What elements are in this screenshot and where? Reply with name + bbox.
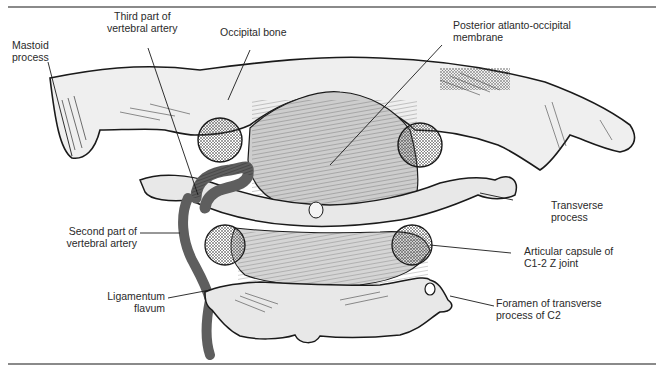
label-mastoid-process: Mastoid process [12,39,49,63]
label-second-part-vertebral-artery: Second part of vertebral artery [62,225,137,249]
c2-transverse-foramen [425,283,435,295]
vertebral-artery-second-part [183,198,210,355]
left-condyle [198,118,242,162]
left-articular-capsule [205,225,245,265]
label-third-part-vertebral-artery: Third part of vertebral artery [107,10,178,34]
right-articular-capsule [392,225,432,265]
label-articular-capsule: Articular capsule of C1-2 Z joint [524,245,613,269]
axis-vertebra [205,278,452,343]
right-condyle [398,123,442,167]
label-ligamentum-flavum: Ligamentum flavum [95,290,165,314]
label-posterior-atlanto-occipital-membrane: Posterior atlanto-occipital membrane [453,19,571,43]
label-foramen-transverse-process: Foramen of transverse process of C2 [496,297,602,321]
label-transverse-process: Transverse process [551,199,603,223]
label-occipital-bone: Occipital bone [220,26,287,38]
